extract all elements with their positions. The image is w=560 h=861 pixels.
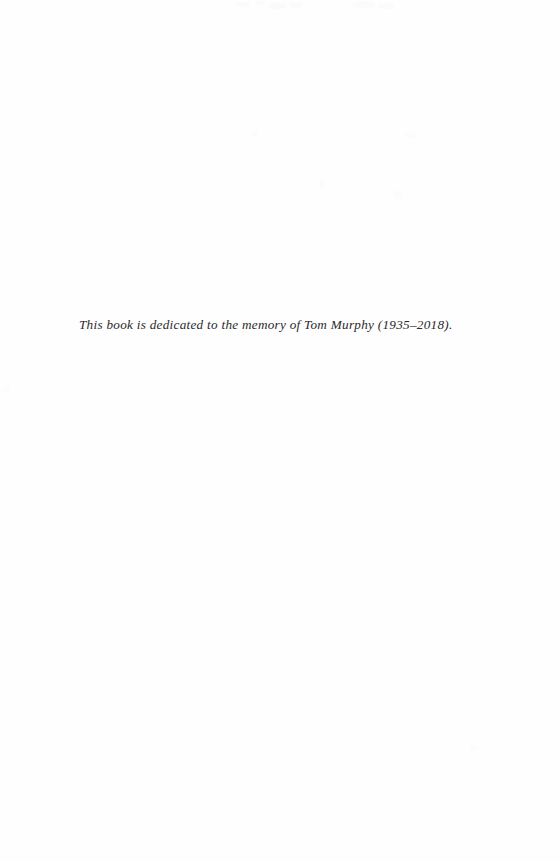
scan-speckle xyxy=(236,2,250,7)
scan-speckle xyxy=(252,131,258,138)
scan-speckle xyxy=(268,3,286,9)
dedication-text: This book is dedicated to the memory of … xyxy=(79,316,479,334)
scan-speckle xyxy=(470,745,477,751)
scan-speckle xyxy=(4,386,10,393)
scan-speckle xyxy=(394,190,402,199)
scan-speckle xyxy=(256,1,265,5)
scan-speckle xyxy=(352,1,374,8)
dedication-page: This book is dedicated to the memory of … xyxy=(0,0,560,861)
scan-speckle xyxy=(290,2,302,8)
scan-speckle xyxy=(378,3,394,9)
scan-speckle xyxy=(318,180,325,188)
scan-speckle xyxy=(404,133,418,138)
